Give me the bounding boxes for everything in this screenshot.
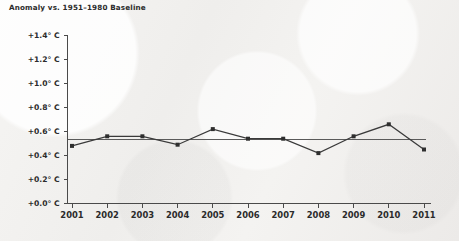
x-axis-tick-label: 2011: [412, 210, 435, 220]
data-point-marker: [246, 137, 250, 141]
data-point-marker: [281, 137, 285, 141]
x-axis-tick-label: 2004: [166, 210, 189, 220]
y-axis-tick-label: +0.0° C: [28, 199, 60, 208]
x-axis-tick-label: 2010: [377, 210, 400, 220]
data-point-marker: [140, 134, 144, 138]
chart-plot-area: +0.0° C+0.2° C+0.4° C+0.6° C+0.8° C+1.0°…: [0, 0, 459, 241]
data-point-marker: [176, 143, 180, 147]
y-axis-tick-label: +0.4° C: [28, 151, 60, 160]
data-point-marker: [70, 144, 74, 148]
x-axis-tick-label: 2007: [272, 210, 295, 220]
data-point-marker: [422, 148, 426, 152]
x-axis-tick-label: 2009: [342, 210, 365, 220]
y-axis-tick-label: +1.0° C: [28, 79, 60, 88]
data-point-marker: [105, 134, 109, 138]
y-axis-tick-label: +0.8° C: [28, 103, 60, 112]
y-axis-tick-label: +0.6° C: [28, 127, 60, 136]
data-point-marker: [316, 151, 320, 155]
y-axis-tick-label: +0.2° C: [28, 175, 60, 184]
x-axis-tick-label: 2008: [307, 210, 330, 220]
data-point-marker: [387, 122, 391, 126]
x-axis-tick-label: 2002: [96, 210, 119, 220]
x-axis: 2001200220032004200520062007200820092010…: [60, 204, 435, 221]
x-axis-tick-label: 2001: [60, 210, 83, 220]
anomaly-data-markers: [70, 122, 426, 155]
data-point-marker: [211, 127, 215, 131]
data-point-marker: [352, 134, 356, 138]
x-axis-tick-label: 2005: [201, 210, 224, 220]
y-axis-tick-label: +1.4° C: [28, 31, 60, 40]
x-axis-tick-label: 2006: [236, 210, 259, 220]
temperature-anomaly-chart: Anomaly vs. 1951–1980 Baseline +0.0° C+0…: [0, 0, 459, 241]
y-axis-tick-label: +1.2° C: [28, 55, 60, 64]
y-axis: +0.0° C+0.2° C+0.4° C+0.6° C+0.8° C+1.0°…: [28, 31, 68, 208]
x-axis-tick-label: 2003: [131, 210, 154, 220]
